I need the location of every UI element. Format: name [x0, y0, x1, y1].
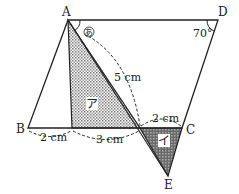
label-b: B [16, 122, 25, 136]
label-region-i: イ [158, 134, 170, 148]
label-a: A [61, 5, 71, 19]
label-d: D [218, 5, 228, 19]
label-e: E [164, 178, 173, 192]
label-angle-d: 70° [193, 27, 213, 40]
label-region-a: ア [86, 97, 98, 111]
label-angle-a: あ [84, 28, 93, 38]
label-bp: 2 cm [40, 131, 68, 144]
label-c: C [186, 123, 195, 137]
label-pq: 3 cm [96, 133, 124, 146]
label-aq: 5 cm [114, 71, 142, 84]
label-qc: 2 cm [152, 112, 180, 125]
geometry-diagram: A D B C E あ 70° ア イ 5 cm 2 cm 3 cm 2 cm [0, 0, 239, 194]
